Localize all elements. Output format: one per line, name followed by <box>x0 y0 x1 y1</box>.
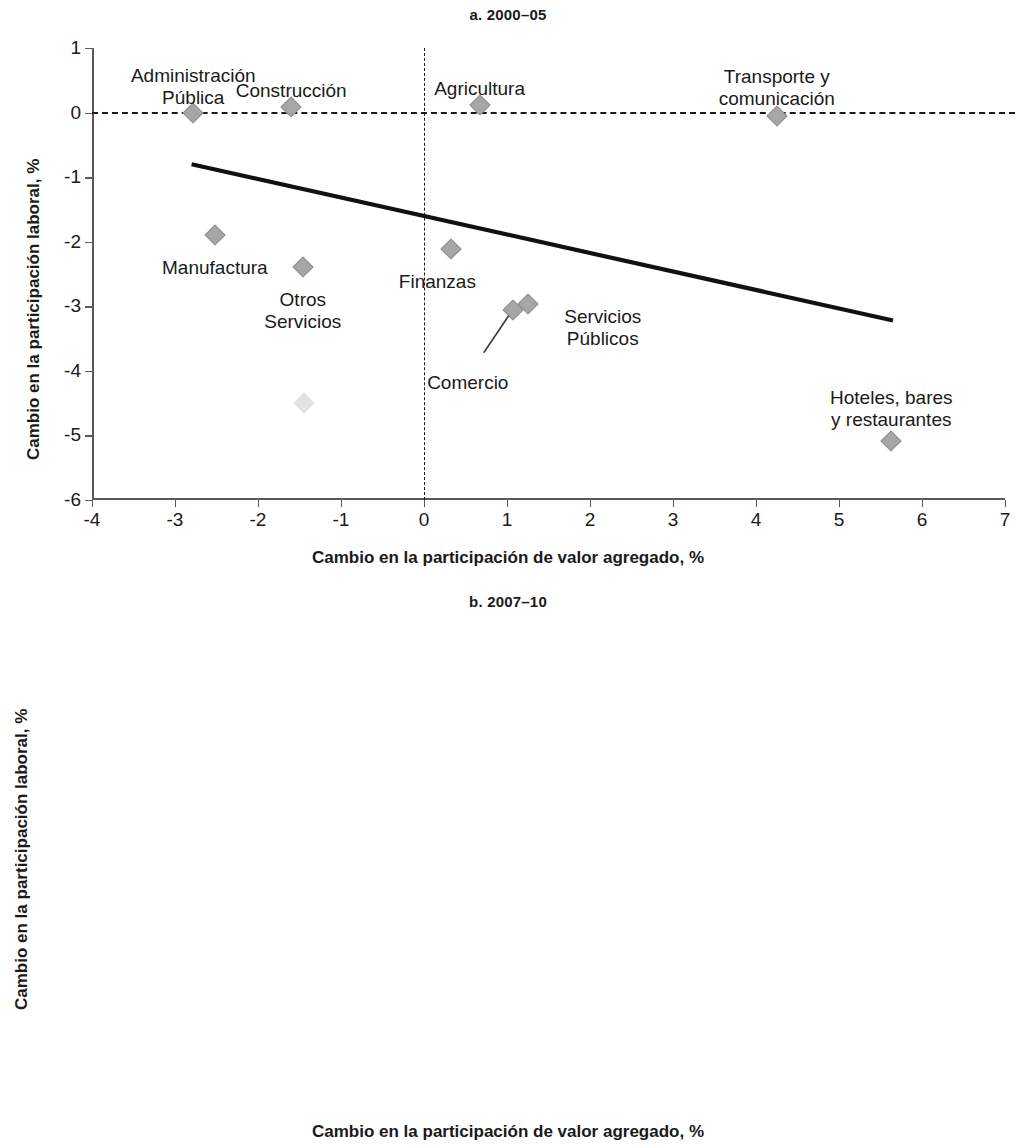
y-tick-label: -5 <box>64 424 81 446</box>
x-tick <box>507 500 508 507</box>
x-tick-label: 3 <box>668 509 679 531</box>
panel-a-y-axis-title: Cambio en la participación laboral, % <box>24 159 44 460</box>
x-tick-label: 7 <box>1000 509 1011 531</box>
x-tick-label: 2 <box>585 509 596 531</box>
y-tick-label: -2 <box>64 231 81 253</box>
x-tick <box>922 500 923 507</box>
y-tick-label: -4 <box>64 360 81 382</box>
panel-b-title: b. 2007–10 <box>0 593 1016 610</box>
x-tick <box>258 500 259 507</box>
panel-a-title: a. 2000–05 <box>0 6 1016 23</box>
y-tick <box>85 177 92 178</box>
x-tick <box>673 500 674 507</box>
x-tick <box>756 500 757 507</box>
panel-a-x-axis-title: Cambio en la participación de valor agre… <box>0 548 1016 568</box>
point-label-transporte: Transporte y comunicación <box>719 66 835 110</box>
y-tick <box>85 306 92 307</box>
panel-b-2007-10: b. 2007–10 -6-4-202461086420-2-4-6Servic… <box>0 580 1016 1148</box>
x-tick-label: -3 <box>167 509 184 531</box>
y-tick-label: -6 <box>64 489 81 511</box>
y-tick <box>85 371 92 372</box>
x-tick-label: 6 <box>917 509 928 531</box>
y-tick <box>85 435 92 436</box>
point-label-finanzas: Finanzas <box>399 271 476 293</box>
x-tick-label: 1 <box>502 509 513 531</box>
y-tick <box>85 500 92 501</box>
panel-a-plot-area: -4-3-2-10123456710-1-2-3-4-5-6Administra… <box>92 48 1005 500</box>
x-tick-label: -4 <box>84 509 101 531</box>
x-tick-label: -2 <box>250 509 267 531</box>
x-tick <box>341 500 342 507</box>
point-label-otros: Otros Servicios <box>264 289 341 333</box>
x-tick <box>839 500 840 507</box>
panel-b-x-axis-title: Cambio en la participación de valor agre… <box>0 1122 1016 1142</box>
x-tick <box>1005 500 1006 507</box>
y-tick <box>85 113 92 114</box>
point-label-manufactura: Manufactura <box>162 257 268 279</box>
y-tick-label: -3 <box>64 295 81 317</box>
panel-b-y-axis-title: Cambio en la participación laboral, % <box>12 709 32 1010</box>
x-tick <box>424 500 425 507</box>
point-label-agricultura: Agricultura <box>434 78 525 100</box>
y-tick <box>85 48 92 49</box>
point-label-construccion: Construcción <box>236 80 347 102</box>
x-tick <box>175 500 176 507</box>
y-tick-label: 1 <box>70 37 81 59</box>
panel-a-2000-05: a. 2000–05 Cambio en la participación la… <box>0 0 1016 580</box>
y-tick-label: -1 <box>64 166 81 188</box>
x-tick <box>92 500 93 507</box>
x-tick-label: 5 <box>834 509 845 531</box>
x-tick-label: 4 <box>751 509 762 531</box>
point-label-serv_publicos: Servicios Públicos <box>564 306 641 350</box>
point-label-comercio: Comercio <box>427 372 508 394</box>
x-tick-label: 0 <box>419 509 430 531</box>
y-tick-label: 0 <box>70 102 81 124</box>
y-tick <box>85 242 92 243</box>
point-label-hoteles: Hoteles, bares y restaurantes <box>830 387 953 431</box>
x-tick-label: -1 <box>333 509 350 531</box>
x-tick <box>590 500 591 507</box>
